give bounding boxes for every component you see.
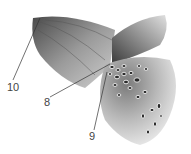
flower-illustration xyxy=(0,0,191,154)
figure: 10 8 9 xyxy=(0,0,191,154)
upper-lobe xyxy=(112,15,167,64)
label-9: 9 xyxy=(89,131,95,142)
label-10: 10 xyxy=(7,82,19,93)
label-8: 8 xyxy=(44,97,50,108)
lower-lip xyxy=(100,57,176,145)
